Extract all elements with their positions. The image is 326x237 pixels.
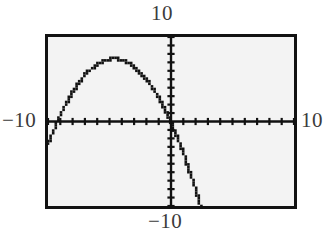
curve-pixel	[198, 200, 201, 203]
curve-pixel	[75, 83, 78, 86]
curve-pixel	[185, 155, 188, 158]
curve-pixel	[179, 142, 182, 145]
curve-pixel	[153, 88, 156, 91]
curve-pixel	[68, 98, 71, 101]
curve-pixel	[190, 171, 193, 174]
curve-pixel	[109, 57, 112, 60]
calculator-screen	[45, 34, 297, 209]
curve-pixel	[125, 62, 128, 65]
curve-pixel	[49, 135, 52, 138]
curve-pixel	[94, 64, 97, 67]
curve-pixel	[192, 184, 195, 187]
curve-pixel	[70, 93, 73, 96]
curve-pixel	[185, 158, 188, 161]
curve-pixel	[177, 140, 180, 143]
curve-pixel	[120, 59, 123, 62]
curve-pixel	[143, 77, 146, 80]
curve-pixel	[83, 75, 86, 78]
curve-pixel	[151, 85, 154, 88]
curve-pixel	[68, 96, 71, 99]
curve-pixel	[164, 106, 167, 109]
curve-pixel	[172, 124, 175, 127]
curve-pixel	[187, 171, 190, 174]
curve-pixel	[94, 67, 97, 70]
curve-pixel	[138, 70, 141, 73]
curve-pixel	[185, 161, 188, 164]
curve-pixel	[81, 80, 84, 83]
curve-pixel	[73, 88, 76, 91]
curve-pixel	[159, 98, 162, 101]
curve-pixel	[73, 90, 76, 93]
curve-pixel	[166, 114, 169, 117]
curve-pixel	[127, 62, 130, 65]
curve-pixel	[62, 109, 65, 112]
curve-pixel	[200, 205, 203, 206]
data-series-parabola	[48, 57, 203, 207]
curve-pixel	[192, 179, 195, 182]
curve-pixel	[125, 59, 128, 62]
curve-pixel	[179, 148, 182, 151]
curve-pixel	[130, 64, 133, 67]
curve-pixel	[49, 140, 52, 143]
curve-pixel	[161, 103, 164, 106]
curve-pixel	[109, 59, 112, 62]
curve-pixel	[182, 148, 185, 151]
curve-pixel	[172, 127, 175, 130]
curve-pixel	[55, 122, 58, 125]
curve-pixel	[198, 202, 201, 205]
curve-pixel	[135, 67, 138, 70]
curve-pixel	[101, 59, 104, 62]
curve-pixel	[48, 140, 49, 143]
curve-pixel	[161, 106, 164, 109]
curve-pixel	[65, 101, 68, 104]
curve-pixel	[75, 85, 78, 88]
curve-pixel	[174, 135, 177, 138]
curve-pixel	[117, 59, 120, 62]
curve-pixel	[177, 137, 180, 140]
curve-pixel	[101, 62, 104, 65]
curve-pixel	[190, 176, 193, 179]
curve-pixel	[187, 166, 190, 169]
curve-pixel	[60, 111, 63, 114]
curve-pixel	[70, 96, 73, 99]
curve-pixel	[107, 59, 110, 62]
curve-pixel	[83, 72, 86, 75]
curve-pixel	[68, 101, 71, 104]
curve-pixel	[96, 62, 99, 65]
y-axis-max-label: 10	[151, 3, 173, 24]
curve-pixel	[78, 83, 81, 86]
curve-pixel	[112, 57, 115, 60]
curve-pixel	[117, 57, 120, 60]
curve-pixel	[133, 64, 136, 67]
curve-pixel	[159, 96, 162, 99]
curve-pixel	[166, 111, 169, 114]
curve-pixel	[169, 122, 172, 125]
curve-pixel	[62, 106, 65, 109]
curve-pixel	[140, 75, 143, 78]
curve-pixel	[195, 194, 198, 197]
curve-pixel	[187, 168, 190, 171]
curve-pixel	[185, 163, 188, 166]
curve-pixel	[52, 129, 55, 132]
curve-pixel	[86, 72, 89, 75]
curve-pixel	[96, 64, 99, 67]
curve-pixel	[48, 142, 49, 145]
curve-pixel	[138, 72, 141, 75]
curve-pixel	[65, 103, 68, 106]
curve-pixel	[172, 122, 175, 125]
curve-pixel	[151, 88, 154, 91]
curve-pixel	[195, 192, 198, 195]
curve-pixel	[153, 90, 156, 93]
curve-pixel	[198, 194, 201, 197]
curve-pixel	[148, 80, 151, 83]
curve-pixel	[143, 75, 146, 78]
curve-pixel	[182, 153, 185, 156]
curve-pixel	[91, 67, 94, 70]
curve-pixel	[182, 150, 185, 153]
curve-pixel	[133, 67, 136, 70]
curve-pixel	[159, 101, 162, 104]
calculator-graph-figure: 10 −10 10 −10	[0, 0, 326, 237]
curve-pixel	[172, 129, 175, 132]
curve-pixel	[174, 129, 177, 132]
x-axis-min-label: −10	[2, 110, 36, 131]
